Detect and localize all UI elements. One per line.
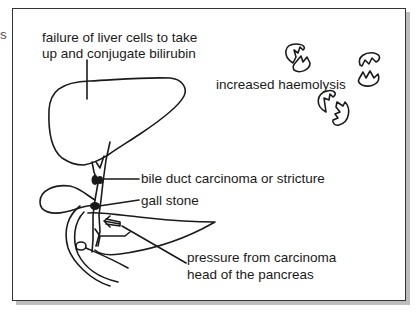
gall-stone-label: gall stone [141, 192, 199, 209]
liver-label-line2: up and conjugate bilirubin [42, 45, 196, 62]
gall-stone-mark [90, 202, 100, 210]
pressure-arrow [104, 216, 120, 227]
gall-stone-pointer [99, 200, 139, 206]
pancreas-label-line2: head of the pancreas [187, 266, 314, 283]
haemolysis-label: increased haemolysis [216, 76, 346, 93]
bile-duct-label: bile duct carcinoma or stricture [141, 170, 325, 187]
pancreas-pointer [122, 226, 186, 263]
liver-label-line1: failure of liver cells to take [42, 29, 197, 46]
gallbladder [40, 186, 95, 213]
pancreas-label-line1: pressure from carcinoma [187, 249, 336, 266]
liver-outline [49, 78, 185, 165]
